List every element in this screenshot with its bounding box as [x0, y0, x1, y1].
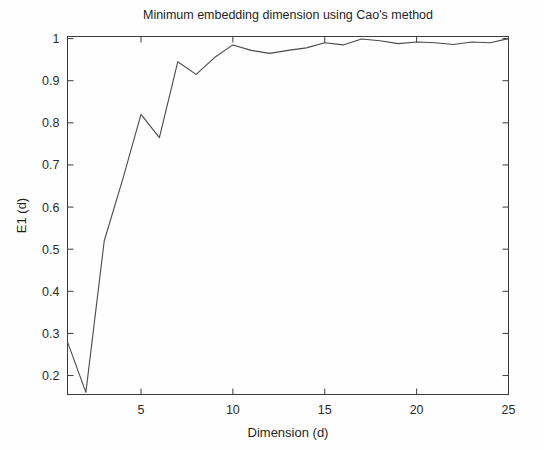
chart-title: Minimum embedding dimension using Cao's … — [143, 8, 433, 22]
y-tick-label: 0.8 — [42, 116, 59, 130]
x-tick-label: 20 — [410, 403, 424, 417]
x-tick-label: 5 — [138, 403, 145, 417]
x-tick-label: 15 — [318, 403, 332, 417]
y-tick-label: 0.3 — [42, 327, 59, 341]
figure-canvas: 5101520250.20.30.40.50.60.70.80.91Minimu… — [0, 0, 544, 450]
cao-method-line-chart: 5101520250.20.30.40.50.60.70.80.91Minimu… — [0, 0, 544, 450]
x-tick-label: 10 — [226, 403, 240, 417]
y-tick-label: 0.5 — [42, 243, 59, 257]
y-axis-title: E1 (d) — [14, 198, 29, 233]
plot-area: 5101520250.20.30.40.50.60.70.80.91Minimu… — [14, 8, 515, 440]
y-tick-label: 1 — [53, 32, 60, 46]
y-tick-label: 0.9 — [42, 74, 59, 88]
y-tick-label: 0.4 — [42, 285, 59, 299]
y-tick-label: 0.7 — [42, 158, 59, 172]
y-tick-label: 0.6 — [42, 201, 59, 215]
x-axis-title: Dimension (d) — [248, 425, 329, 440]
plot-box-border — [68, 37, 509, 395]
x-tick-label: 25 — [502, 403, 516, 417]
data-series-line — [68, 39, 509, 393]
y-tick-label: 0.2 — [42, 369, 59, 383]
